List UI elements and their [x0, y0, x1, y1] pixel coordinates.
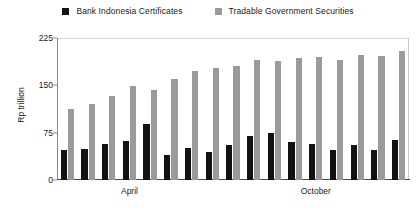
bar-bank-indonesia-certificates	[164, 155, 170, 180]
bar-group	[143, 38, 156, 180]
bar-chart: Bank Indonesia Certificates Tradable Gov…	[0, 0, 416, 213]
bar-group	[309, 38, 322, 180]
bar-group	[247, 38, 260, 180]
bar-tradable-government-securities	[171, 79, 177, 180]
y-axis-title: Rp trillion	[16, 70, 26, 140]
bar-bank-indonesia-certificates	[330, 150, 336, 180]
bar-group	[226, 38, 239, 180]
chart-legend: Bank Indonesia Certificates Tradable Gov…	[0, 6, 416, 16]
y-axis: 225 150 75 0	[0, 0, 53, 213]
bars-layer	[57, 38, 409, 180]
bar-bank-indonesia-certificates	[143, 124, 149, 180]
bar-bank-indonesia-certificates	[185, 148, 191, 180]
bar-group	[61, 38, 74, 180]
bar-bank-indonesia-certificates	[371, 150, 377, 180]
bar-bank-indonesia-certificates	[61, 150, 67, 180]
bar-bank-indonesia-certificates	[123, 141, 129, 180]
y-tick-label-75: 75	[44, 128, 53, 138]
bar-bank-indonesia-certificates	[206, 152, 212, 180]
legend-label-tradable-government-securities: Tradable Government Securities	[229, 6, 354, 16]
legend-swatch-black	[62, 8, 69, 15]
bar-bank-indonesia-certificates	[392, 140, 398, 180]
bar-group	[164, 38, 177, 180]
bar-group	[288, 38, 301, 180]
bar-tradable-government-securities	[233, 66, 239, 180]
bar-tradable-government-securities	[378, 56, 384, 180]
bar-bank-indonesia-certificates	[309, 144, 315, 180]
y-tick-label-225: 225	[39, 33, 53, 43]
bar-tradable-government-securities	[296, 58, 302, 180]
bar-group	[371, 38, 384, 180]
bar-group	[206, 38, 219, 180]
bar-tradable-government-securities	[68, 109, 74, 180]
bar-group	[102, 38, 115, 180]
bar-tradable-government-securities	[89, 104, 95, 180]
bar-group	[81, 38, 94, 180]
bar-tradable-government-securities	[192, 71, 198, 180]
y-tick-label-150: 150	[39, 80, 53, 90]
bar-bank-indonesia-certificates	[247, 136, 253, 180]
bar-bank-indonesia-certificates	[288, 142, 294, 180]
x-axis-tick-label: April	[121, 186, 138, 196]
bar-tradable-government-securities	[130, 86, 136, 180]
bar-tradable-government-securities	[213, 68, 219, 180]
bar-tradable-government-securities	[151, 90, 157, 180]
bar-tradable-government-securities	[399, 51, 405, 180]
bar-group	[392, 38, 405, 180]
bar-tradable-government-securities	[337, 60, 343, 180]
x-axis-tick-label: October	[301, 186, 331, 196]
bar-tradable-government-securities	[358, 55, 364, 180]
bar-bank-indonesia-certificates	[81, 149, 87, 180]
bar-tradable-government-securities	[254, 60, 260, 180]
bar-bank-indonesia-certificates	[351, 145, 357, 180]
bar-group	[185, 38, 198, 180]
bar-bank-indonesia-certificates	[102, 144, 108, 180]
bar-bank-indonesia-certificates	[268, 133, 274, 180]
bar-group	[268, 38, 281, 180]
legend-label-bank-indonesia-certificates: Bank Indonesia Certificates	[76, 6, 182, 16]
bar-group	[123, 38, 136, 180]
bar-tradable-government-securities	[109, 96, 115, 180]
legend-item-tradable-government-securities: Tradable Government Securities	[215, 6, 354, 16]
bar-bank-indonesia-certificates	[226, 145, 232, 180]
bar-tradable-government-securities	[275, 61, 281, 180]
bar-tradable-government-securities	[316, 57, 322, 180]
legend-item-bank-indonesia-certificates: Bank Indonesia Certificates	[62, 6, 182, 16]
bar-group	[330, 38, 343, 180]
bar-group	[351, 38, 364, 180]
legend-swatch-gray	[215, 8, 222, 15]
